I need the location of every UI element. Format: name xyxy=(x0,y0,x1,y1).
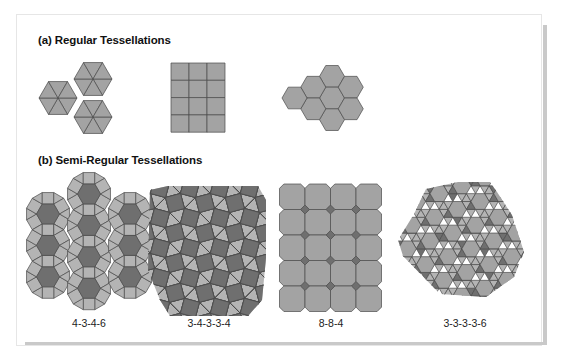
triangle-tile xyxy=(444,162,453,170)
triangle-tile xyxy=(530,202,539,210)
triangle-tile xyxy=(503,178,512,186)
triangle-tile xyxy=(403,209,412,217)
triangle-tile xyxy=(471,296,480,304)
triangle-tile xyxy=(530,280,539,288)
octagon-tile xyxy=(331,286,357,312)
triangle-tile xyxy=(517,209,526,217)
triangle-tile xyxy=(444,154,453,162)
triangle-tile xyxy=(512,178,521,186)
triangle-tile xyxy=(435,265,444,273)
triangle-tile xyxy=(507,154,516,162)
octagon-tile xyxy=(305,184,331,210)
triangle-tile xyxy=(416,288,425,296)
triangle-tile xyxy=(498,288,507,296)
triangle-tile xyxy=(530,249,539,257)
triangle-tile xyxy=(530,178,539,186)
square-tile xyxy=(180,328,199,347)
square-tile xyxy=(136,164,155,183)
square-tile xyxy=(240,149,259,168)
triangle-tile xyxy=(507,202,516,210)
triangle-tile xyxy=(430,288,439,296)
square-tile xyxy=(255,164,274,183)
triangle-tile xyxy=(466,296,475,304)
hexagon-tile xyxy=(394,265,412,281)
square-tile xyxy=(165,343,184,362)
octagon-tile xyxy=(356,261,382,287)
triangle-tile xyxy=(526,217,535,225)
square-tile xyxy=(285,164,304,183)
triangle-tile xyxy=(498,146,507,154)
triangle-tile xyxy=(503,296,512,304)
triangle-tile xyxy=(521,217,530,225)
hexagon-tile xyxy=(517,178,535,194)
square-tile xyxy=(225,164,244,183)
triangle-tile xyxy=(530,257,539,265)
triangle-tile xyxy=(526,280,535,288)
triangle-tile xyxy=(535,280,544,288)
triangle-tile xyxy=(521,225,530,233)
hexagon-tile xyxy=(389,178,407,194)
triangle-tile xyxy=(444,146,453,154)
triangle-tile xyxy=(398,202,407,210)
triangle-tile xyxy=(403,304,412,312)
hexagon-tile xyxy=(498,162,516,178)
hexagon-tile xyxy=(412,280,430,296)
triangle-tile xyxy=(457,257,466,265)
square-tile xyxy=(151,149,170,168)
triangle-tile xyxy=(494,170,503,178)
triangle-tile xyxy=(476,304,485,312)
hexagon-tile xyxy=(380,225,398,241)
square-tile xyxy=(189,80,207,97)
triangle-tile xyxy=(394,217,403,225)
triangle-tile xyxy=(421,154,430,162)
label-8-8-4: 8-8-4 xyxy=(281,317,381,329)
triangle-tile xyxy=(430,162,439,170)
hexagon-tile xyxy=(389,288,407,304)
square-tile xyxy=(121,149,140,168)
triangle-tile xyxy=(503,288,512,296)
triangle-tile xyxy=(517,225,526,233)
square-tile xyxy=(83,298,95,310)
square-tile xyxy=(171,63,189,80)
triangle-tile xyxy=(435,154,444,162)
triangle-tile xyxy=(403,280,412,288)
triangle-tile xyxy=(521,257,530,265)
triangle-tile xyxy=(535,288,544,296)
triangle-tile xyxy=(507,288,516,296)
triangle-tile xyxy=(530,296,539,304)
octagon-tile xyxy=(280,210,306,236)
octagon-tile xyxy=(331,184,357,210)
triangle-tile xyxy=(521,186,530,194)
triangle-tessellation xyxy=(0,0,568,363)
triangle-tile xyxy=(512,280,521,288)
square-tile xyxy=(121,298,140,317)
square-tile xyxy=(180,149,199,168)
triangle-tile xyxy=(530,170,539,178)
triangle-tile xyxy=(398,178,407,186)
square-tile xyxy=(189,63,207,80)
square-tile xyxy=(124,193,136,205)
triangle-tile xyxy=(426,202,435,210)
triangle-tile xyxy=(439,296,448,304)
square-tile xyxy=(42,224,54,236)
octagon-tile xyxy=(331,235,357,261)
triangle-tile xyxy=(448,304,457,312)
triangle-tile xyxy=(489,296,498,304)
triangle-tile xyxy=(471,170,480,178)
triangle-tile xyxy=(403,202,412,210)
octagon-tile xyxy=(280,184,306,210)
triangle-tile xyxy=(457,296,466,304)
square-tile xyxy=(42,287,54,299)
triangle-tile xyxy=(398,288,407,296)
triangle-tile xyxy=(503,241,512,249)
triangle-tile xyxy=(512,162,521,170)
triangle-tile xyxy=(503,170,512,178)
triangle-tile xyxy=(526,170,535,178)
triangle-tile xyxy=(403,154,412,162)
triangle-tile xyxy=(426,296,435,304)
triangle-tile xyxy=(535,233,544,241)
triangle-tile xyxy=(466,304,475,312)
square-tile xyxy=(189,98,207,115)
triangle-tile xyxy=(439,241,448,249)
triangle-tile xyxy=(453,170,462,178)
